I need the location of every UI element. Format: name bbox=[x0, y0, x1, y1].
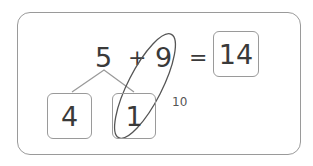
decomposition-lines bbox=[0, 0, 313, 166]
make-ten-label: 10 bbox=[172, 96, 187, 108]
part-right-box: 1 bbox=[112, 93, 156, 139]
part-left-box: 4 bbox=[47, 93, 92, 139]
part-right-value: 1 bbox=[125, 101, 142, 132]
part-left-value: 4 bbox=[61, 101, 78, 132]
